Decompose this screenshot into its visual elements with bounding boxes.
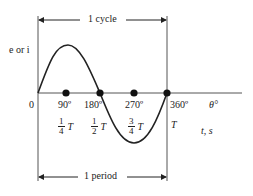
quarter-period-label: 14 T [58,117,73,136]
half-period-label: 12 T [91,117,106,136]
full-period-label: T [171,120,177,130]
tick-label-270: 270º [125,100,143,110]
y-axis-label: e or i [9,45,30,55]
tick-label-360: 360º [170,100,188,110]
waveform-diagram [0,0,253,196]
three-quarter-period-label: 34 T [128,117,143,136]
tick-label-90: 90º [58,100,71,110]
theta-axis-label: θ° [209,100,218,110]
point-360-deg [163,89,170,96]
frac-sym: T [68,122,74,132]
point-90-deg [62,89,69,96]
frac-sym: T [138,122,144,132]
frac-sym: T [101,122,107,132]
origin-label: 0 [29,100,34,110]
tick-label-180: 180º [84,100,102,110]
frac-den: 4 [59,127,64,136]
frac-den: 2 [92,127,97,136]
one-period-label: 1 period [80,171,121,181]
point-180-deg [96,89,103,96]
one-cycle-label: 1 cycle [84,14,121,24]
point-270-deg [130,89,137,96]
time-axis-label: t, s [201,126,213,136]
frac-den: 4 [129,127,134,136]
